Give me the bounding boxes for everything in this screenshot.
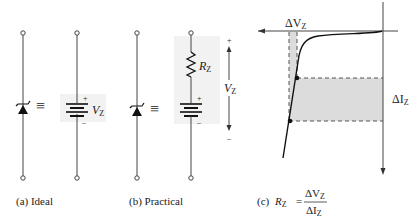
terminal-top xyxy=(189,31,193,35)
svg-text:(c): (c) xyxy=(257,195,270,208)
panel-a-ideal: ≡ + – VZ (a) Ideal xyxy=(16,31,106,208)
terminal-bottom xyxy=(75,176,79,180)
panel-b-practical: ≡ RZ + – + – VZ (b) Practical xyxy=(129,31,236,208)
delta-iz-label: ΔIZ xyxy=(392,92,409,107)
delta-i-region xyxy=(291,78,383,121)
svg-text:=: = xyxy=(296,195,302,207)
terminal-top xyxy=(135,31,139,35)
delta-vz-label: ΔVZ xyxy=(285,16,306,31)
zener-diode-equivalent-figure: ≡ + – VZ (a) Ideal ≡ xyxy=(0,0,420,222)
equivalence-symbol-a: ≡ xyxy=(36,97,45,114)
operating-point-upper xyxy=(295,76,300,81)
plus-sign: + xyxy=(197,94,202,103)
svg-text:ΔVZ: ΔVZ xyxy=(305,187,325,201)
terminal-bottom xyxy=(21,176,25,180)
equivalence-symbol-b: ≡ xyxy=(150,100,159,117)
resistor-battery-series-b xyxy=(174,31,220,180)
svg-text:–: – xyxy=(226,134,232,143)
svg-text:+: + xyxy=(227,36,232,45)
terminal-bottom xyxy=(135,176,139,180)
svg-text:RZ: RZ xyxy=(274,195,287,209)
zener-diode-symbol-a xyxy=(16,31,30,180)
svg-text:ΔIZ: ΔIZ xyxy=(306,204,322,218)
operating-point-lower xyxy=(288,119,293,124)
terminal-top xyxy=(21,31,25,35)
plus-sign: + xyxy=(83,94,88,103)
zener-diode-symbol-b xyxy=(130,31,144,180)
terminal-top xyxy=(75,31,79,35)
caption-b: (b) Practical xyxy=(129,195,183,208)
caption-a: (a) Ideal xyxy=(16,195,53,208)
terminal-bottom xyxy=(189,176,193,180)
caption-c: (c) RZ = ΔVZ ΔIZ xyxy=(257,187,327,218)
panel-c-characteristic: ΔVZ ΔIZ (c) RZ = ΔVZ ΔIZ xyxy=(257,2,409,218)
